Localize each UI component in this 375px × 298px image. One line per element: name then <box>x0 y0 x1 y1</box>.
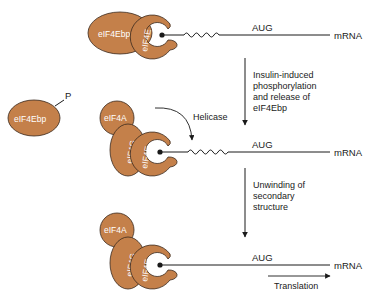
eif4e-protein <box>130 245 177 289</box>
step-1-text-line-4: eIF4Ebp <box>253 103 287 113</box>
released-eif4ebp: eIF4Ebp P <box>8 90 71 136</box>
mrna-label: mRNA <box>334 260 363 271</box>
eif4a-label: eIF4A <box>104 225 127 235</box>
stage-1-complex: eIF4Ebp eIF4E AUG mRNA <box>88 12 363 59</box>
phosphate-label: P <box>65 90 71 101</box>
step-2-text-line-3: structure <box>253 202 288 212</box>
phospho-eif4ebp-label: eIF4Ebp <box>14 114 46 124</box>
step-2-text-line-1: Unwinding of <box>253 180 306 190</box>
eif4e-protein <box>130 132 177 176</box>
aug-codon-label: AUG <box>252 139 273 150</box>
mrna-strand <box>160 150 330 154</box>
mrna-label: mRNA <box>334 147 363 158</box>
phosphate-bond <box>55 100 64 106</box>
step-1-text-line-1: Insulin-induced <box>253 70 314 80</box>
eif4ebp-label: eIF4Ebp <box>98 29 130 39</box>
aug-codon-label: AUG <box>252 22 273 33</box>
eif4a-label: eIF4A <box>104 113 127 123</box>
step-2-text-line-2: secondary <box>253 191 295 201</box>
aug-codon-label: AUG <box>252 252 273 263</box>
translation-label: Translation <box>274 281 318 291</box>
mrna-strand <box>162 33 330 37</box>
eif4e-protein <box>130 15 177 59</box>
step-1-text-line-2: phosphorylation <box>253 81 317 91</box>
eif4e-translation-initiation-diagram: eIF4Ebp eIF4E AUG mRNA Insulin-induced p… <box>0 0 375 298</box>
stage-2-complex: eIF4A eIF4G eIF4E Helicase AUG mRNA <box>100 101 363 176</box>
helicase-label: Helicase <box>193 112 228 122</box>
stage-3-complex: eIF4A eIF4G eIF4E AUG mRNA Translation <box>100 213 363 291</box>
mrna-label: mRNA <box>334 30 363 41</box>
step-1-text-line-3: and release of <box>253 92 311 102</box>
step-1: Insulin-induced phosphorylation and rele… <box>245 58 317 125</box>
step-2: Unwinding of secondary structure <box>245 168 306 237</box>
